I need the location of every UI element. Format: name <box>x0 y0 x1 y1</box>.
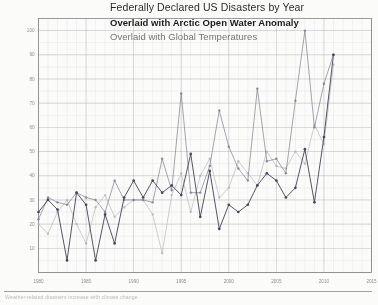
x-axis-tick-labels: 19801985199019952000200520102015 <box>33 279 377 284</box>
y-axis-tick-labels: 102030405060708090100 <box>27 28 35 251</box>
svg-text:70: 70 <box>29 101 35 106</box>
svg-text:2015: 2015 <box>366 279 377 284</box>
svg-text:2005: 2005 <box>271 279 282 284</box>
series-federally-declared-us-disasters <box>37 53 335 261</box>
svg-text:10: 10 <box>29 246 35 251</box>
data-series-group <box>37 29 335 261</box>
svg-text:1990: 1990 <box>129 279 140 284</box>
line-chart: 102030405060708090100 198019851990199520… <box>0 0 378 305</box>
footer-divider <box>4 291 372 292</box>
chart-plot-area: 102030405060708090100 198019851990199520… <box>0 0 378 305</box>
footer-caption: Weather-related disasters increase with … <box>5 294 138 300</box>
svg-text:2010: 2010 <box>319 279 330 284</box>
svg-text:90: 90 <box>29 52 35 57</box>
svg-text:100: 100 <box>27 28 35 33</box>
svg-text:2000: 2000 <box>224 279 235 284</box>
svg-text:1980: 1980 <box>33 279 44 284</box>
svg-text:20: 20 <box>29 222 35 227</box>
svg-text:30: 30 <box>29 198 35 203</box>
svg-text:40: 40 <box>29 173 35 178</box>
series-global-temperatures <box>37 63 334 254</box>
svg-text:1995: 1995 <box>176 279 187 284</box>
svg-text:80: 80 <box>29 77 35 82</box>
svg-text:50: 50 <box>29 149 35 154</box>
svg-text:1985: 1985 <box>81 279 92 284</box>
svg-text:60: 60 <box>29 125 35 130</box>
